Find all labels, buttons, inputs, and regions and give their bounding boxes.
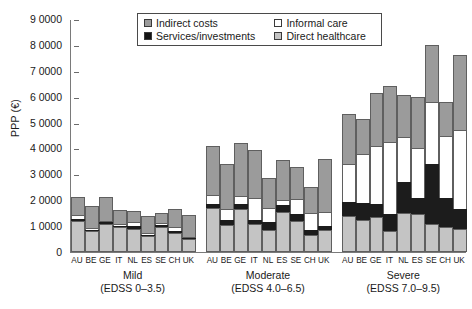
bar-segment-indirect-costs bbox=[113, 210, 127, 224]
bar-moderate-au[interactable] bbox=[206, 20, 220, 252]
bar-segment-informal-care bbox=[206, 195, 220, 204]
y-axis-ticks: 01 00002 00003 00004 00005 00006 00007 0… bbox=[10, 0, 62, 309]
y-axis-tick-label: 6 0000 bbox=[10, 92, 62, 103]
x-axis-label-be: BE bbox=[219, 256, 233, 265]
bar-segment-direct-healthcare bbox=[182, 239, 196, 252]
x-axis-label-es: ES bbox=[275, 256, 289, 265]
bar-moderate-it[interactable] bbox=[248, 20, 262, 252]
bar-segment-direct-healthcare bbox=[262, 230, 276, 252]
x-axis-label-ch: CH bbox=[438, 256, 452, 265]
bar-severe-be[interactable] bbox=[356, 20, 370, 252]
x-axis-label-es: ES bbox=[410, 256, 424, 265]
bar-segment-indirect-costs bbox=[383, 86, 397, 142]
x-axis-category-labels-moderate: AUBEGEITNLESSECHUK bbox=[205, 256, 330, 265]
bar-segment-informal-care bbox=[220, 209, 234, 219]
x-axis-label-se: SE bbox=[154, 256, 168, 265]
stacked-bar-chart: PPP (€) 01 00002 00003 00004 00005 00006… bbox=[0, 0, 472, 309]
bar-mild-be[interactable] bbox=[85, 20, 99, 252]
bar-moderate-uk[interactable] bbox=[318, 20, 332, 252]
bar-segment-direct-healthcare bbox=[356, 220, 370, 252]
bar-mild-ge[interactable] bbox=[99, 20, 113, 252]
bar-mild-nl[interactable] bbox=[127, 20, 141, 252]
y-axis-tick-label: 1 0000 bbox=[10, 221, 62, 232]
bar-segment-services-investments bbox=[397, 182, 411, 213]
bar-moderate-ch[interactable] bbox=[304, 20, 318, 252]
bar-segment-direct-healthcare bbox=[453, 229, 467, 252]
bar-segment-informal-care bbox=[290, 199, 304, 215]
bar-moderate-es[interactable] bbox=[276, 20, 290, 252]
bar-segment-informal-care bbox=[262, 208, 276, 222]
bar-segment-indirect-costs bbox=[141, 216, 155, 233]
bar-segment-indirect-costs bbox=[411, 97, 425, 149]
y-axis-tick-label: 3 0000 bbox=[10, 169, 62, 180]
bar-segment-direct-healthcare bbox=[248, 224, 262, 252]
bar-severe-ch[interactable] bbox=[439, 20, 453, 252]
bar-severe-es[interactable] bbox=[411, 20, 425, 252]
bar-mild-au[interactable] bbox=[71, 20, 85, 252]
bar-severe-it[interactable] bbox=[383, 20, 397, 252]
bar-segment-informal-care bbox=[383, 142, 397, 214]
x-axis-label-se: SE bbox=[289, 256, 303, 265]
bar-segment-indirect-costs bbox=[182, 215, 196, 237]
x-axis-label-ge: GE bbox=[233, 256, 247, 265]
bar-segment-informal-care bbox=[356, 154, 370, 203]
x-axis-label-nl: NL bbox=[261, 256, 275, 265]
bar-segment-informal-care bbox=[411, 148, 425, 197]
bar-segment-services-investments bbox=[370, 204, 384, 217]
bar-severe-ge[interactable] bbox=[370, 20, 384, 252]
group-label-mild: Mild(EDSS 0–3.5) bbox=[70, 269, 195, 295]
x-axis-label-ch: CH bbox=[303, 256, 317, 265]
bar-segment-indirect-costs bbox=[304, 187, 318, 213]
bar-segment-indirect-costs bbox=[262, 178, 276, 208]
group-edss-range: (EDSS 4.0–6.5) bbox=[205, 282, 330, 295]
bar-segment-direct-healthcare bbox=[383, 231, 397, 252]
bar-mild-es[interactable] bbox=[141, 20, 155, 252]
bar-segment-informal-care bbox=[342, 164, 356, 202]
bar-segment-direct-healthcare bbox=[234, 209, 248, 252]
x-axis-label-ch: CH bbox=[167, 256, 181, 265]
bar-group-severe bbox=[342, 20, 467, 252]
bar-segment-indirect-costs bbox=[248, 150, 262, 198]
bar-segment-services-investments bbox=[453, 209, 467, 228]
bar-mild-se[interactable] bbox=[155, 20, 169, 252]
bar-segment-informal-care bbox=[304, 213, 318, 230]
group-name: Moderate bbox=[205, 269, 330, 282]
bar-moderate-ge[interactable] bbox=[234, 20, 248, 252]
x-axis-label-be: BE bbox=[355, 256, 369, 265]
bar-segment-informal-care bbox=[397, 137, 411, 182]
bar-segment-indirect-costs bbox=[85, 206, 99, 228]
bar-segment-indirect-costs bbox=[342, 114, 356, 164]
bar-moderate-be[interactable] bbox=[220, 20, 234, 252]
bar-segment-indirect-costs bbox=[99, 197, 113, 220]
bar-severe-au[interactable] bbox=[342, 20, 356, 252]
bar-mild-it[interactable] bbox=[113, 20, 127, 252]
bar-mild-uk[interactable] bbox=[182, 20, 196, 252]
bar-moderate-se[interactable] bbox=[290, 20, 304, 252]
x-axis-label-ge: GE bbox=[98, 256, 112, 265]
bar-segment-informal-care bbox=[370, 146, 384, 204]
x-axis-label-it: IT bbox=[247, 256, 261, 265]
bar-segment-services-investments bbox=[262, 222, 276, 230]
bar-severe-se[interactable] bbox=[425, 20, 439, 252]
x-axis-label-au: AU bbox=[205, 256, 219, 265]
bar-severe-uk[interactable] bbox=[453, 20, 467, 252]
bar-segment-direct-healthcare bbox=[276, 212, 290, 252]
bar-segment-direct-healthcare bbox=[127, 229, 141, 252]
bar-segment-informal-care bbox=[248, 198, 262, 220]
bar-segment-direct-healthcare bbox=[397, 213, 411, 252]
y-axis-tick-label: 9 0000 bbox=[10, 14, 62, 25]
x-axis-label-uk: UK bbox=[181, 256, 195, 265]
bar-severe-nl[interactable] bbox=[397, 20, 411, 252]
bar-moderate-nl[interactable] bbox=[262, 20, 276, 252]
bar-segment-direct-healthcare bbox=[304, 235, 318, 252]
bar-mild-ch[interactable] bbox=[168, 20, 182, 252]
bar-segment-indirect-costs bbox=[370, 93, 384, 146]
bar-segment-direct-healthcare bbox=[71, 221, 85, 252]
bar-segment-indirect-costs bbox=[127, 211, 141, 223]
group-label-moderate: Moderate(EDSS 4.0–6.5) bbox=[205, 269, 330, 295]
x-axis-label-au: AU bbox=[341, 256, 355, 265]
bar-segment-indirect-costs bbox=[220, 164, 234, 209]
x-axis-label-ge: GE bbox=[369, 256, 383, 265]
bar-segment-informal-care bbox=[425, 102, 439, 164]
bar-segment-direct-healthcare bbox=[425, 224, 439, 252]
